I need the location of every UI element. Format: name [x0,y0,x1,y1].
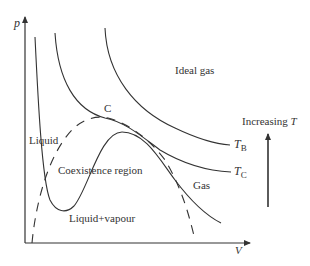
gas-label: Gas [193,180,210,191]
t-b-label-main: T [234,137,241,151]
liquid-vapour-label: Liquid+vapour [69,213,135,224]
t-c-label: TC [234,165,247,180]
t-b-label: TB [234,138,247,153]
increasing-t-var: T [291,115,297,127]
critical-point-label: C [104,103,111,114]
t-c-label-sub: C [241,170,247,180]
t-b-label-sub: B [241,143,247,153]
pv-diagram [0,0,310,266]
x-axis-label: V [235,245,242,256]
increasing-t-prefix: Increasing [242,115,291,127]
isotherm-t-b [105,28,230,145]
ideal-gas-label: Ideal gas [175,65,214,76]
t-c-label-main: T [234,164,241,178]
coexistence-region-label: Coexistence region [58,165,143,176]
y-axis-label: p [14,17,20,29]
liquid-label: Liquid [29,135,58,146]
isotherm-t-c [55,33,231,172]
increasing-t-label: Increasing T [242,116,297,127]
